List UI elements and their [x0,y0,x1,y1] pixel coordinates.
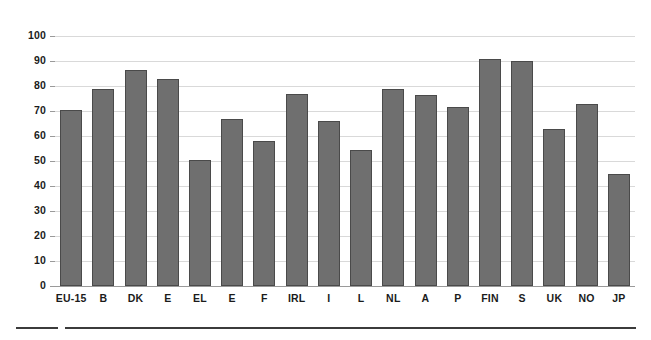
bar-uk-15[interactable] [543,129,565,287]
bar-e-5[interactable] [221,119,243,287]
bar-p-12[interactable] [447,107,469,286]
x-tick-label-l-9: L [345,292,377,308]
x-tick-label-fin-13: FIN [474,292,506,308]
bar-jp-17[interactable] [608,174,630,287]
y-tick-label-0: 0 [0,279,46,291]
bar-nl-10[interactable] [382,89,404,287]
x-tick-label-a-11: A [409,292,441,308]
bar-s-14[interactable] [511,61,533,286]
bar-chart-figure: 1009080706050403020100 EU-15BDKEELEFIRLI… [0,0,651,340]
bar-slot-eu-15-0 [55,36,87,286]
bar-irl-7[interactable] [286,94,308,287]
bar-slot-jp-17 [603,36,635,286]
bar-slot-irl-7 [281,36,313,286]
bar-slot-dk-2 [119,36,151,286]
bar-el-4[interactable] [189,160,211,286]
y-tick-label-90: 90 [0,54,46,66]
bar-slot-fin-13 [474,36,506,286]
x-tick-label-no-16: NO [571,292,603,308]
y-tick-mark-0 [50,286,55,287]
plot-area [55,36,635,286]
bar-slot-uk-15 [538,36,570,286]
y-tick-label-80: 80 [0,79,46,91]
bar-slot-e-3 [152,36,184,286]
bar-eu-15-0[interactable] [60,110,82,286]
bars-group [55,36,635,286]
y-tick-label-100: 100 [0,29,46,41]
bar-slot-el-4 [184,36,216,286]
bar-fin-13[interactable] [479,59,501,287]
x-tick-label-el-4: EL [184,292,216,308]
x-tick-label-s-14: S [506,292,538,308]
y-tick-label-70: 70 [0,104,46,116]
x-tick-label-p-12: P [442,292,474,308]
x-tick-label-nl-10: NL [377,292,409,308]
bar-slot-nl-10 [377,36,409,286]
x-tick-label-jp-17: JP [603,292,635,308]
x-tick-label-irl-7: IRL [281,292,313,308]
x-tick-label-b-1: B [87,292,119,308]
y-tick-label-20: 20 [0,229,46,241]
bar-i-8[interactable] [318,121,340,286]
bar-b-1[interactable] [92,89,114,287]
bar-slot-p-12 [442,36,474,286]
x-tick-label-dk-2: DK [119,292,151,308]
bar-slot-s-14 [506,36,538,286]
bar-a-11[interactable] [415,95,437,286]
bar-slot-a-11 [409,36,441,286]
x-tick-label-e-3: E [152,292,184,308]
bar-dk-2[interactable] [125,70,147,286]
bar-slot-l-9 [345,36,377,286]
y-tick-label-60: 60 [0,129,46,141]
footer-rule-short [16,327,58,329]
x-tick-label-f-6: F [248,292,280,308]
gridline-0 [55,286,635,287]
x-tick-label-eu-15-0: EU-15 [55,292,87,308]
y-tick-label-30: 30 [0,204,46,216]
footer-rule-long [65,327,636,329]
bar-slot-f-6 [248,36,280,286]
x-tick-label-i-8: I [313,292,345,308]
x-tick-label-uk-15: UK [538,292,570,308]
bar-e-3[interactable] [157,79,179,287]
x-axis-category-labels: EU-15BDKEELEFIRLILNLAPFINSUKNOJP [55,292,635,308]
y-tick-label-10: 10 [0,254,46,266]
bar-slot-b-1 [87,36,119,286]
y-tick-label-40: 40 [0,179,46,191]
bar-no-16[interactable] [576,104,598,287]
y-tick-label-50: 50 [0,154,46,166]
x-tick-label-e-5: E [216,292,248,308]
bar-f-6[interactable] [253,141,275,286]
bar-slot-no-16 [571,36,603,286]
bar-slot-i-8 [313,36,345,286]
bar-l-9[interactable] [350,150,372,286]
bar-slot-e-5 [216,36,248,286]
